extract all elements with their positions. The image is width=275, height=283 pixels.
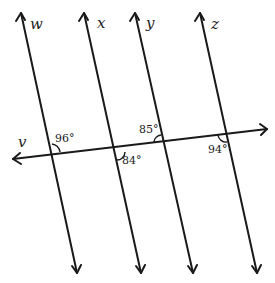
line-x: [79, 13, 145, 273]
angle-label-85: 85°: [139, 123, 159, 136]
angle-label-96: 96°: [55, 132, 75, 145]
angle-arc-w: [52, 144, 60, 152]
label-w: w: [30, 15, 43, 33]
label-z: z: [210, 15, 219, 33]
label-v: v: [18, 133, 27, 151]
angle-label-94: 94°: [208, 143, 228, 156]
label-x: x: [97, 14, 106, 32]
angle-arc-z: [218, 135, 227, 142]
parallel-lines-diagram: w x y z v 96° 84° 85° 94°: [0, 0, 275, 283]
angle-label-84: 84°: [122, 154, 142, 167]
label-y: y: [145, 14, 155, 32]
line-z: [195, 13, 261, 273]
